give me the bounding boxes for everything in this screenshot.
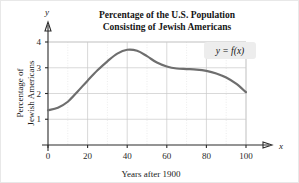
y-tick-label: 2	[37, 89, 42, 99]
chart-figure: y = f(x) Percentage of the U.S. Populati…	[0, 0, 299, 183]
x-tick-label: 100	[239, 151, 253, 161]
y-tick-label: 3	[37, 63, 42, 73]
x-tick-label: 40	[123, 151, 133, 161]
x-tick-label: 20	[83, 151, 93, 161]
y-tick-label: 4	[37, 37, 42, 47]
function-annotation: y = f(x)	[215, 46, 245, 57]
chart-title-line-2: Consisting of Jewish Americans	[103, 22, 232, 32]
y-axis-label-line-2: Jewish Americans	[26, 60, 36, 126]
x-axis-label: Years after 1900	[121, 169, 181, 179]
chart-title-line-1: Percentage of the U.S. Population	[99, 10, 236, 20]
x-tick-label: 80	[202, 151, 212, 161]
y-tick-labels: 1234	[37, 37, 42, 124]
y-axis-name: y	[44, 7, 49, 17]
x-tick-label: 60	[162, 151, 172, 161]
x-tick-label: 0	[46, 151, 51, 161]
chart-svg: y = f(x) Percentage of the U.S. Populati…	[1, 1, 299, 183]
y-axis-label-line-1: Percentage of	[15, 68, 25, 117]
x-tick-labels: 020406080100	[46, 151, 254, 161]
x-axis-name: x	[278, 141, 283, 151]
y-tick-label: 1	[37, 114, 42, 124]
